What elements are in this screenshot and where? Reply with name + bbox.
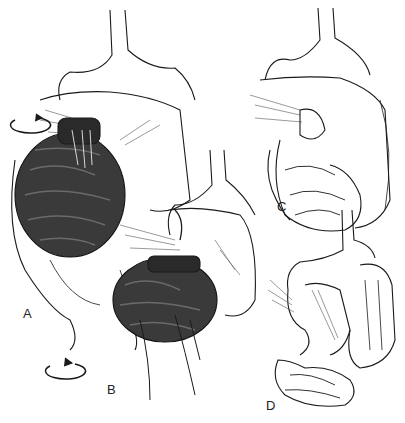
- panel-label-d: D: [266, 398, 275, 413]
- panel-c-drawing: [250, 8, 390, 231]
- panel-d-drawing: [268, 210, 395, 406]
- panel-label-b: B: [107, 382, 116, 397]
- panel-b-drawing: [113, 150, 255, 400]
- panel-label-a: A: [23, 306, 32, 321]
- panel-label-c: C: [277, 199, 286, 214]
- illustration: [0, 0, 405, 423]
